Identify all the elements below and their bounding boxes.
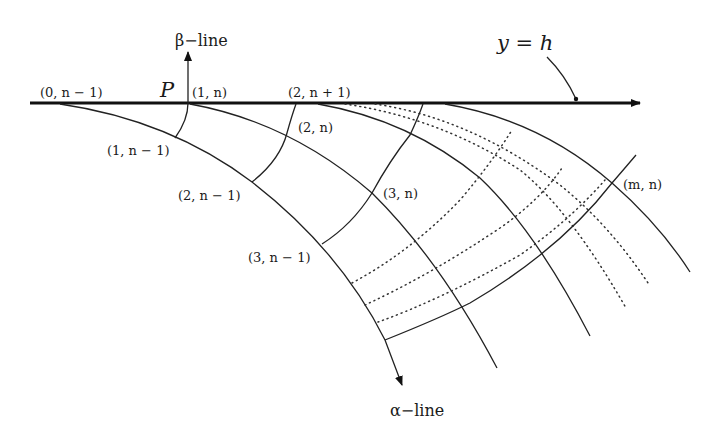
beta-line-P [175, 52, 188, 138]
boundary-pointer-arrow [547, 57, 576, 99]
node-label-3-n: (3, n) [383, 186, 418, 201]
node-label-2-n: (2, n) [298, 120, 333, 135]
node-label-0-nm1: (0, n − 1) [40, 85, 102, 100]
beta-dotted-1 [352, 130, 512, 283]
node-label-1-nm1: (1, n − 1) [107, 143, 169, 158]
node-label-3-nm1: (3, n − 1) [248, 250, 310, 265]
node-label-1-n: (1, n) [192, 85, 227, 100]
beta-line-label: β−line [175, 31, 228, 50]
beta-curve-m [385, 155, 636, 340]
node-label-2-nm1: (2, n − 1) [178, 188, 240, 203]
point-label-P: P [159, 78, 175, 102]
node-label-m-n: (m, n) [623, 177, 662, 192]
characteristic-mesh-diagram: y = h β−line α−line P (0, n − 1) (1, n) … [0, 0, 710, 445]
alpha-line-label: α−line [390, 401, 444, 420]
alpha-curve-2 [190, 104, 497, 368]
beta-curve-3 [322, 104, 423, 244]
beta-curve-2 [252, 104, 296, 182]
node-label-2-np1: (2, n + 1) [288, 85, 350, 100]
boundary-label: y = h [496, 31, 553, 55]
